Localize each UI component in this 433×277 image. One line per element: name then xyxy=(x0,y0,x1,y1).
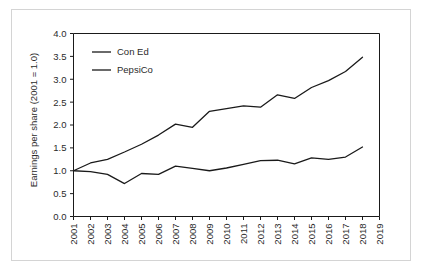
y-tick-label: 3.5 xyxy=(53,51,66,62)
x-tick-label: 2002 xyxy=(85,224,96,245)
y-tick-label: 1.0 xyxy=(53,165,66,176)
x-tick-label: 2003 xyxy=(102,224,113,245)
x-tick-label: 2001 xyxy=(68,224,79,245)
x-tick-marks xyxy=(74,217,380,221)
y-tick-label: 2.5 xyxy=(53,97,66,108)
y-tick-label: 0.0 xyxy=(53,211,66,222)
x-tick-label: 2004 xyxy=(119,224,130,245)
series-line-pepsico xyxy=(74,147,363,184)
chart-legend: Con EdPepsiCo xyxy=(92,46,153,75)
y-tick-label: 3.0 xyxy=(53,74,66,85)
x-tick-label: 2010 xyxy=(221,224,232,245)
y-tick-label: 0.5 xyxy=(53,188,66,199)
y-tick-label: 4.0 xyxy=(53,28,66,39)
axis-spines xyxy=(74,34,380,217)
x-tick-label: 2005 xyxy=(136,224,147,245)
x-tick-label: 2019 xyxy=(374,224,385,245)
y-axis-title: Earnings per share (2001 = 1.0) xyxy=(28,53,39,187)
x-tick-label: 2013 xyxy=(272,224,283,245)
y-tick-marks xyxy=(70,34,74,217)
x-tick-labels: 2001200220032004200520062007200820092010… xyxy=(68,224,385,245)
x-tick-label: 2006 xyxy=(153,224,164,245)
legend-label: Con Ed xyxy=(117,46,149,57)
x-tick-label: 2015 xyxy=(306,224,317,245)
y-tick-labels: 0.00.51.01.52.02.53.03.54.0 xyxy=(53,28,66,222)
x-tick-label: 2014 xyxy=(289,224,300,245)
x-tick-label: 2008 xyxy=(187,224,198,245)
series-lines xyxy=(74,57,363,183)
x-tick-label: 2011 xyxy=(238,224,249,244)
x-tick-label: 2016 xyxy=(323,224,334,245)
y-tick-label: 2.0 xyxy=(53,119,66,130)
legend-label: PepsiCo xyxy=(117,64,153,75)
x-tick-label: 2012 xyxy=(255,224,266,245)
x-tick-label: 2009 xyxy=(204,224,215,245)
x-tick-label: 2017 xyxy=(340,224,351,245)
x-tick-label: 2018 xyxy=(357,224,368,245)
x-tick-label: 2007 xyxy=(170,224,181,245)
line-chart: Earnings per share (2001 = 1.0) 0.00.51.… xyxy=(0,0,433,277)
y-tick-label: 1.5 xyxy=(53,142,66,153)
